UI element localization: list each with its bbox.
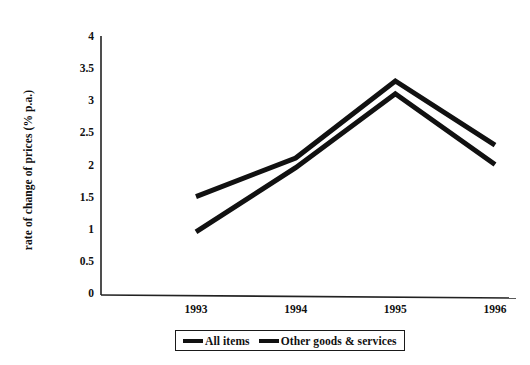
legend-swatch-icon	[259, 339, 279, 343]
x-axis-line	[101, 295, 516, 298]
legend-swatch-icon	[183, 339, 203, 343]
plot-area	[0, 0, 530, 365]
legend-label: Other goods & services	[281, 335, 397, 347]
axis-lines	[101, 36, 516, 298]
data-series-layer	[196, 81, 495, 232]
legend-item-all-items: All items	[183, 335, 250, 347]
chart-legend: All items Other goods & services	[175, 330, 405, 351]
chart-figure: rate of change of prices (% p.a.) 00.511…	[0, 0, 530, 365]
legend-item-other-goods-services: Other goods & services	[259, 335, 397, 347]
legend-label: All items	[205, 335, 250, 347]
series-line-all-items	[196, 81, 495, 197]
